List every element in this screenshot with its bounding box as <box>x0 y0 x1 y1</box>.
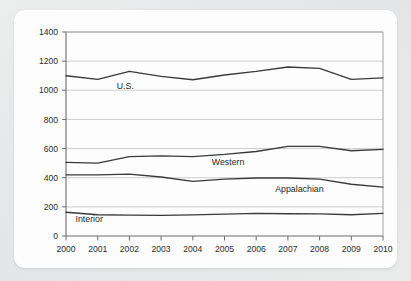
plot-frame <box>66 32 383 236</box>
y-tick-label-600: 600 <box>44 144 59 154</box>
y-tick-label-1000: 1000 <box>39 85 58 95</box>
x-axis-tick-labels: 2000200120022003200420052006200720082009… <box>56 244 392 254</box>
chart-svg: 0200400600800100012001400 20002001200220… <box>14 10 397 268</box>
series-label-u-s: U.S. <box>117 81 134 91</box>
line-chart: 0200400600800100012001400 20002001200220… <box>14 10 397 268</box>
y-tick-label-1400: 1400 <box>39 27 58 37</box>
x-tick-label-2007: 2007 <box>278 244 297 254</box>
x-tick-label-2006: 2006 <box>247 244 266 254</box>
x-tick-label-2000: 2000 <box>56 244 75 254</box>
chart-card: 0200400600800100012001400 20002001200220… <box>14 10 397 268</box>
x-tick-label-2005: 2005 <box>215 244 234 254</box>
y-tick-label-1200: 1200 <box>39 56 58 66</box>
x-tick-label-2008: 2008 <box>310 244 329 254</box>
series-line-u-s <box>66 67 383 80</box>
series-label-interior: Interior <box>76 214 103 224</box>
series-line-appalachian <box>66 174 383 187</box>
series-labels: U.S.WesternAppalachianInterior <box>76 81 324 224</box>
x-tick-label-2002: 2002 <box>120 244 139 254</box>
x-tick-label-2001: 2001 <box>88 244 107 254</box>
x-tick-label-2003: 2003 <box>152 244 171 254</box>
y-tick-label-200: 200 <box>44 202 59 212</box>
y-axis-ticks <box>62 32 66 236</box>
x-tick-label-2010: 2010 <box>373 244 392 254</box>
x-tick-label-2009: 2009 <box>342 244 361 254</box>
series-line-interior <box>66 212 383 215</box>
x-axis-ticks <box>66 236 383 241</box>
gridlines <box>66 32 383 207</box>
figure-root: 0200400600800100012001400 20002001200220… <box>0 0 411 281</box>
y-tick-label-800: 800 <box>44 115 59 125</box>
series-label-western: Western <box>212 157 245 167</box>
y-axis-tick-labels: 0200400600800100012001400 <box>39 27 58 241</box>
x-tick-label-2004: 2004 <box>183 244 202 254</box>
y-tick-label-0: 0 <box>53 231 58 241</box>
series-lines <box>66 67 383 215</box>
y-tick-label-400: 400 <box>44 173 59 183</box>
series-label-appalachian: Appalachian <box>275 184 324 194</box>
